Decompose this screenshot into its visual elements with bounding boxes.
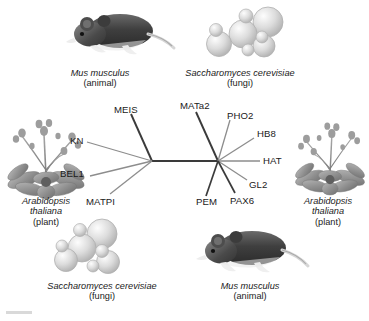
- gene-label-pem: PEM: [196, 196, 217, 207]
- species-name-line2: thaliana: [288, 206, 368, 216]
- gene-label-meis: MEIS: [114, 104, 138, 115]
- gene-label-matpi: MATPI: [86, 196, 115, 207]
- yeast-illustration-bottom: [50, 218, 150, 278]
- gene-label-kn: KN: [70, 135, 84, 146]
- species-group: (animal): [42, 78, 158, 88]
- gene-label-hb8: HB8: [257, 128, 276, 139]
- gene-label-pho2: PHO2: [227, 110, 254, 121]
- species-name-line2: thaliana: [2, 206, 90, 216]
- species-group: (fungi): [168, 78, 312, 88]
- caption-plant-right: Arabidopsis thaliana (plant): [288, 196, 368, 227]
- species-group: (plant): [2, 217, 90, 227]
- mouse-illustration-bottom: [190, 222, 310, 280]
- species-name: Mus musculus: [192, 281, 308, 291]
- species-group: (fungi): [26, 291, 178, 301]
- gene-label-pax6: PAX6: [230, 195, 254, 206]
- corner-rule: [6, 311, 32, 314]
- caption-mouse-top: Mus musculus (animal): [42, 68, 158, 89]
- gene-label-mata2: MATa2: [180, 100, 210, 111]
- branch-kn: [87, 142, 152, 161]
- species-name: Mus musculus: [42, 68, 158, 78]
- gene-label-hat: HAT: [263, 155, 282, 166]
- species-name-line1: Arabidopsis: [288, 196, 368, 206]
- caption-yeast-top: Saccharomyces cerevisiae (fungi): [168, 68, 312, 89]
- gene-label-bel1: BEL1: [60, 168, 84, 179]
- species-name-line1: Arabidopsis: [2, 196, 90, 206]
- arabidopsis-illustration-left: [4, 114, 88, 200]
- arabidopsis-illustration-right: [292, 114, 368, 200]
- branch-pem: [206, 161, 218, 196]
- figure-container: MEIS MATa2 PHO2 HB8 HAT GL2 PAX6 PEM MAT…: [0, 0, 369, 321]
- species-name: Saccharomyces cerevisiae: [168, 68, 312, 78]
- mouse-illustration-top: [60, 4, 178, 62]
- yeast-illustration-top: [196, 4, 302, 62]
- caption-mouse-bottom: Mus musculus (animal): [192, 281, 308, 302]
- caption-plant-left: Arabidopsis thaliana (plant): [2, 196, 90, 227]
- branch-mata2: [196, 112, 218, 161]
- caption-yeast-bottom: Saccharomyces cerevisiae (fungi): [26, 281, 178, 302]
- branch-meis: [131, 114, 152, 161]
- species-group: (plant): [288, 217, 368, 227]
- species-group: (animal): [192, 291, 308, 301]
- gene-label-gl2: GL2: [249, 179, 267, 190]
- species-name: Saccharomyces cerevisiae: [26, 281, 178, 291]
